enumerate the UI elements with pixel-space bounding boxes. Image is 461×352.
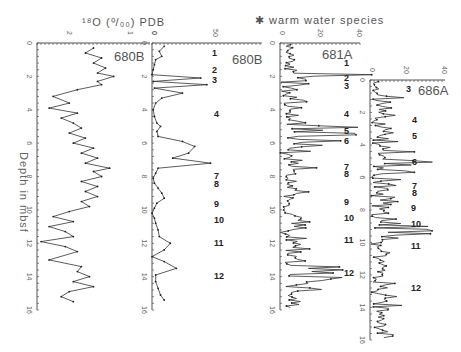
svg-text:0: 0 bbox=[369, 68, 376, 72]
site-label-686a: 686A bbox=[418, 83, 448, 98]
event-marker-681a-1: 1 bbox=[344, 58, 349, 68]
svg-text:0: 0 bbox=[26, 41, 33, 45]
event-marker-686a-5: 5 bbox=[412, 131, 417, 141]
event-marker-9: 9 bbox=[214, 199, 219, 209]
svg-text:4: 4 bbox=[141, 108, 148, 112]
event-marker-681a-5: 5 bbox=[344, 126, 349, 136]
site-label-680b-d18o: 680B bbox=[114, 49, 144, 64]
svg-text:6: 6 bbox=[269, 141, 276, 145]
event-marker-3: 3 bbox=[212, 75, 217, 85]
chart-title-warm-species: ✱ warm water species bbox=[255, 14, 384, 27]
event-marker-10: 10 bbox=[214, 215, 224, 225]
svg-text:16: 16 bbox=[26, 306, 33, 314]
svg-text:0: 0 bbox=[269, 41, 276, 45]
svg-text:0: 0 bbox=[359, 78, 366, 82]
svg-text:20: 20 bbox=[403, 66, 410, 74]
svg-text:1: 1 bbox=[127, 31, 134, 35]
svg-text:14: 14 bbox=[141, 273, 148, 281]
event-marker-8: 8 bbox=[214, 179, 219, 189]
event-marker-1: 1 bbox=[212, 48, 217, 58]
event-marker-12: 12 bbox=[214, 271, 224, 281]
event-marker-686a-11: 11 bbox=[411, 241, 421, 251]
site-label-680b-warm: 680B bbox=[232, 52, 262, 67]
svg-text:40: 40 bbox=[441, 66, 448, 74]
event-marker-681a-9: 9 bbox=[344, 197, 349, 207]
svg-text:0: 0 bbox=[279, 31, 286, 35]
y-axis-label: Depth in mbsf bbox=[18, 152, 30, 233]
event-marker-686a-12: 12 bbox=[411, 283, 421, 293]
svg-text:2: 2 bbox=[141, 74, 148, 78]
svg-text:0: 0 bbox=[151, 31, 158, 35]
svg-text:14: 14 bbox=[359, 304, 366, 312]
svg-text:12: 12 bbox=[26, 239, 33, 247]
svg-text:20: 20 bbox=[317, 29, 324, 37]
svg-text:4: 4 bbox=[359, 143, 366, 147]
svg-text:2: 2 bbox=[269, 74, 276, 78]
event-marker-686a-9: 9 bbox=[411, 203, 416, 213]
event-marker-686a-6: 6 bbox=[412, 157, 417, 167]
svg-text:10: 10 bbox=[141, 206, 148, 214]
svg-text:8: 8 bbox=[141, 175, 148, 179]
event-marker-686a-10: 10 bbox=[411, 219, 421, 229]
svg-text:12: 12 bbox=[269, 239, 276, 247]
svg-text:6: 6 bbox=[141, 141, 148, 145]
event-marker-686a-4: 4 bbox=[412, 115, 417, 125]
event-marker-681a-6: 6 bbox=[344, 136, 349, 146]
svg-text:2: 2 bbox=[66, 31, 73, 35]
svg-text:16: 16 bbox=[269, 306, 276, 314]
event-marker-681a-11: 11 bbox=[344, 235, 354, 245]
svg-text:12: 12 bbox=[359, 271, 366, 279]
svg-text:0: 0 bbox=[141, 41, 148, 45]
svg-text:50: 50 bbox=[212, 29, 219, 37]
svg-text:14: 14 bbox=[269, 273, 276, 281]
svg-text:8: 8 bbox=[269, 175, 276, 179]
svg-text:8: 8 bbox=[359, 208, 366, 212]
event-marker-686a-8: 8 bbox=[412, 188, 417, 198]
svg-text:2: 2 bbox=[359, 111, 366, 115]
svg-text:14: 14 bbox=[26, 273, 33, 281]
event-marker-681a-8: 8 bbox=[344, 169, 349, 179]
svg-text:6: 6 bbox=[26, 141, 33, 145]
event-marker-11: 11 bbox=[214, 238, 224, 248]
event-marker-681a-3: 3 bbox=[344, 81, 349, 91]
svg-text:16: 16 bbox=[359, 336, 366, 344]
svg-text:10: 10 bbox=[359, 239, 366, 247]
event-marker-681a-10: 10 bbox=[344, 213, 354, 223]
event-marker-686a-3: 3 bbox=[406, 84, 411, 94]
event-marker-681a-4: 4 bbox=[344, 109, 349, 119]
event-marker-4: 4 bbox=[214, 109, 219, 119]
svg-text:12: 12 bbox=[141, 239, 148, 247]
event-marker-681a-12: 12 bbox=[344, 268, 354, 278]
svg-text:16: 16 bbox=[141, 306, 148, 314]
svg-text:2: 2 bbox=[26, 74, 33, 78]
svg-text:4: 4 bbox=[269, 108, 276, 112]
core-records-figure: 0246810121416210246810121416050002468101… bbox=[0, 0, 461, 352]
svg-text:40: 40 bbox=[356, 29, 363, 37]
svg-text:4: 4 bbox=[26, 108, 33, 112]
chart-title-d18o: ¹⁸O (⁰/₀₀) PDB bbox=[82, 16, 165, 29]
svg-text:10: 10 bbox=[269, 206, 276, 214]
event-marker-2: 2 bbox=[212, 65, 217, 75]
svg-text:6: 6 bbox=[359, 176, 366, 180]
